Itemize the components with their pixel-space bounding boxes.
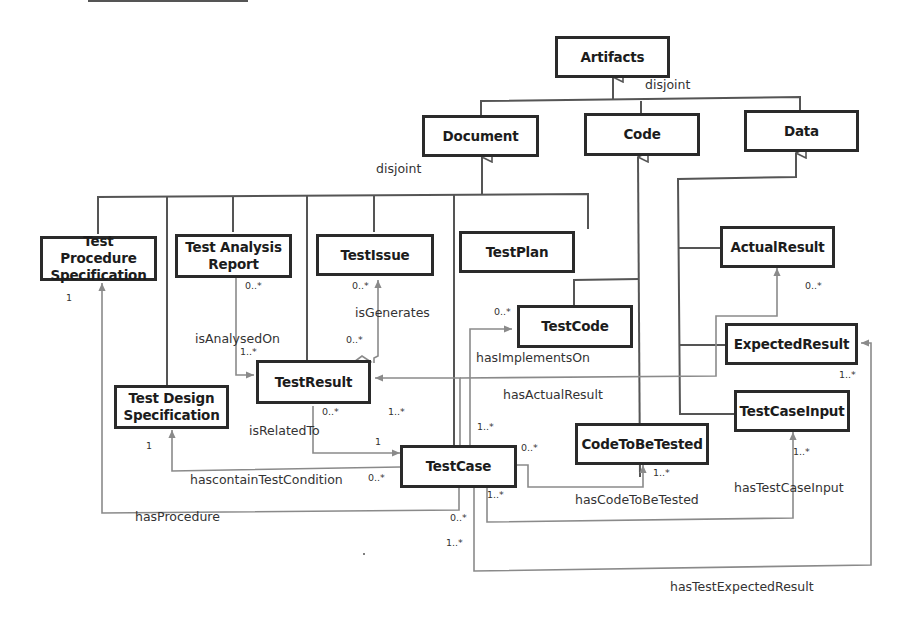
class-data-label: Data: [784, 123, 819, 140]
disjoint-document-label: disjoint: [376, 161, 421, 176]
class-artifacts-label: Artifacts: [581, 49, 645, 66]
class-test-procedure-specification-label: Test Procedure Specification: [43, 233, 154, 284]
class-actual-result-label: ActualResult: [730, 239, 824, 256]
mult-tr-rel: 0..*: [322, 406, 339, 417]
class-test-design-specification-label: Test Design Specification: [117, 390, 226, 424]
assoc-has-code-to-be-tested: hasCodeToBeTested: [575, 492, 699, 507]
mult-tc-rel: 1: [375, 436, 381, 447]
mult-er: 1..*: [839, 369, 856, 380]
mult-tds: 1: [146, 440, 152, 451]
mult-tc-input: 1..*: [487, 489, 504, 500]
mult-ti: 0..*: [352, 280, 369, 291]
assoc-has-actual-result: hasActualResult: [503, 387, 603, 402]
class-test-analysis-report[interactable]: Test Analysis Report: [175, 234, 292, 278]
class-document-label: Document: [443, 128, 519, 145]
class-document[interactable]: Document: [422, 115, 539, 157]
assoc-has-procedure: hasProcedure: [135, 509, 220, 524]
assoc-has-test-case-input: hasTestCaseInput: [734, 480, 844, 495]
assoc-has-contain-test-condition: hascontainTestCondition: [190, 472, 343, 487]
generalization-data: [678, 153, 796, 414]
mult-tc-ctbt: 0..*: [521, 442, 538, 453]
class-test-case-input[interactable]: TestCaseInput: [734, 390, 850, 432]
assoc-has-implements-on: hasImplementsOn: [476, 350, 590, 365]
class-test-result-label: TestResult: [275, 374, 352, 391]
class-test-procedure-specification[interactable]: Test Procedure Specification: [40, 236, 157, 281]
assoc-is-generates: isGenerates: [355, 305, 430, 320]
mult-tc-impl: 1..*: [477, 421, 494, 432]
mult-tci: 1..*: [793, 446, 810, 457]
mult-ctbt: 1..*: [653, 467, 670, 478]
class-test-issue-label: TestIssue: [340, 247, 409, 264]
disjoint-artifacts-label: disjoint: [645, 77, 690, 92]
class-data[interactable]: Data: [744, 110, 859, 152]
assoc-is-related-to: isRelatedTo: [249, 423, 320, 438]
class-test-code[interactable]: TestCode: [517, 305, 633, 348]
mult-tc-exp: 1..*: [446, 537, 463, 548]
mult-tar: 0..*: [245, 280, 262, 291]
mult-ar: 0..*: [805, 280, 822, 291]
mult-tc-proc: 0..*: [450, 512, 467, 523]
class-test-plan-label: TestPlan: [486, 244, 549, 261]
class-test-issue[interactable]: TestIssue: [316, 234, 434, 276]
class-code[interactable]: Code: [584, 113, 700, 156]
class-expected-result-label: ExpectedResult: [734, 336, 850, 353]
mult-tc-code: 0..*: [494, 306, 511, 317]
class-test-result[interactable]: TestResult: [256, 360, 371, 404]
class-code-to-be-tested-label: CodeToBeTested: [581, 436, 702, 453]
class-expected-result[interactable]: ExpectedResult: [725, 323, 858, 365]
mult-tps: 1: [66, 292, 72, 303]
class-code-label: Code: [623, 126, 660, 143]
class-actual-result[interactable]: ActualResult: [720, 226, 835, 268]
assoc-is-analysed-on: isAnalysedOn: [195, 331, 280, 346]
class-test-case-input-label: TestCaseInput: [739, 403, 844, 420]
class-test-design-specification[interactable]: Test Design Specification: [114, 385, 229, 429]
class-artifacts[interactable]: Artifacts: [555, 36, 670, 78]
class-test-case-label: TestCase: [426, 458, 492, 475]
class-test-code-label: TestCode: [541, 318, 608, 335]
class-test-plan[interactable]: TestPlan: [459, 231, 575, 273]
mult-tr-generates: 0..*: [346, 334, 363, 345]
mult-tr-actual: 1..*: [388, 406, 405, 417]
stray-dot: [363, 553, 365, 555]
assoc-has-test-expected-result: hasTestExpectedResult: [670, 579, 814, 594]
class-code-to-be-tested[interactable]: CodeToBeTested: [575, 423, 709, 465]
mult-tr-analysed: 1..*: [240, 346, 257, 357]
class-test-analysis-report-label: Test Analysis Report: [178, 239, 289, 273]
mult-tc-cond: 0..*: [368, 472, 385, 483]
class-test-case[interactable]: TestCase: [400, 445, 517, 488]
